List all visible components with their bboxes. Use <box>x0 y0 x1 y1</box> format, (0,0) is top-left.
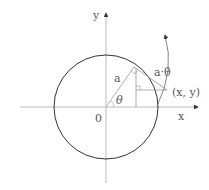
origin-label: 0 <box>95 112 102 125</box>
arc-length-label: a·θ <box>154 66 171 79</box>
y-axis-label: y <box>92 9 100 22</box>
right-angle-mark <box>136 86 140 90</box>
involute-diagram: y x 0 a θ a·θ (x, y) <box>0 0 209 190</box>
x-axis-label: x <box>178 110 185 123</box>
radius-label: a <box>114 72 121 85</box>
angle-label: θ <box>116 94 123 107</box>
point-label: (x, y) <box>172 86 200 99</box>
right-angle-mark-tangent <box>131 70 138 74</box>
angle-arc <box>111 101 114 107</box>
